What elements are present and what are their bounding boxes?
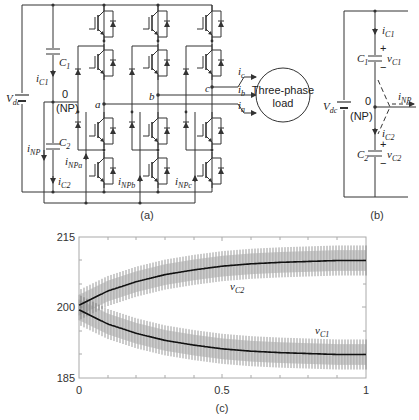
svg-text:iC1: iC1 — [382, 24, 394, 39]
svg-text:ia: ia — [238, 99, 245, 114]
svg-text:iNP: iNP — [398, 90, 411, 105]
vc2-ripple-band — [79, 245, 366, 319]
svg-text:−: − — [380, 157, 386, 169]
svg-text:+: + — [380, 138, 386, 150]
y-tick-215: 215 — [57, 231, 75, 243]
svg-text:C2: C2 — [59, 136, 70, 151]
svg-text:Vdc: Vdc — [323, 100, 338, 115]
svg-text:iNPa: iNPa — [65, 155, 82, 170]
svg-text:C2: C2 — [357, 148, 368, 163]
svg-text:iC2: iC2 — [58, 175, 70, 190]
y-tick-200: 200 — [57, 301, 75, 313]
vdc-label-a: Vdc — [6, 92, 21, 107]
plot-mean-lines — [79, 261, 366, 355]
svg-text:−: − — [380, 61, 386, 73]
labels-a: Vdc C1 iC1 0 (NP) C2 iNP iC2 iNPa iNPb i… — [6, 56, 314, 221]
svg-text:b: b — [149, 90, 155, 102]
y-tick-185: 185 — [57, 372, 75, 384]
x-tick-0: 0 — [76, 384, 82, 396]
svg-text:iNPc: iNPc — [175, 175, 192, 190]
load-label-line2: load — [273, 97, 294, 109]
labels-b: Vdc iC1 C1 + − vC1 0 (NP) iNP iC2 C2 + −… — [323, 24, 411, 221]
svg-text:+: + — [380, 42, 386, 54]
svg-text:ic: ic — [238, 65, 245, 80]
svg-text:0: 0 — [365, 95, 371, 107]
svg-text:iNPb: iNPb — [118, 175, 135, 190]
load-label-line1: Three-phase — [252, 84, 314, 96]
svg-text:(NP): (NP) — [56, 102, 79, 114]
caption-a: (a) — [140, 209, 153, 221]
vc1-label: vC1 — [315, 324, 329, 339]
svg-text:a: a — [95, 98, 101, 110]
x-tick-0-5: 0.5 — [214, 384, 229, 396]
igbt-switches — [89, 5, 224, 188]
svg-text:iNP: iNP — [27, 142, 40, 157]
svg-text:C1: C1 — [59, 56, 70, 71]
caption-c: (c) — [216, 402, 229, 414]
figure-canvas: Vdc C1 iC1 0 (NP) C2 iNP iC2 iNPa iNPb i… — [0, 0, 419, 420]
svg-text:ib: ib — [238, 83, 245, 98]
svg-text:0: 0 — [62, 88, 68, 100]
svg-text:vC2: vC2 — [387, 148, 401, 163]
svg-text:(NP): (NP) — [350, 110, 373, 122]
svg-text:iC1: iC1 — [36, 72, 48, 87]
svg-text:C1: C1 — [357, 52, 368, 67]
x-tick-1: 1 — [363, 384, 369, 396]
svg-text:vC1: vC1 — [387, 52, 401, 67]
svg-text:c: c — [205, 82, 210, 94]
vc2-label: vC2 — [230, 280, 244, 295]
caption-b: (b) — [370, 209, 383, 221]
